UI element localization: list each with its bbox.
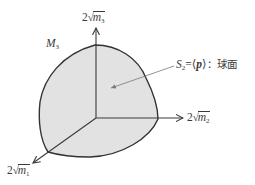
axis-label-m1: 2√m1 <box>7 164 30 178</box>
axis-m1-var: m <box>18 164 26 176</box>
spherical-surface-patch <box>39 45 158 157</box>
region-label-m3: M3 <box>46 38 59 51</box>
region-label-sub: 3 <box>56 43 60 51</box>
axis-m2-sub: 2 <box>206 117 210 125</box>
axis-m3-var: m <box>93 11 101 23</box>
axis-label-m3: 2√m3 <box>82 11 105 25</box>
diagram-canvas <box>0 0 255 185</box>
surface-annotation: S2=⟨p⟩：球面 <box>176 59 237 72</box>
axis-m1-sub: 1 <box>26 170 30 178</box>
axis-m2-var: m <box>198 111 206 123</box>
annotation-description: 球面 <box>217 58 237 70</box>
axis-m3-sub: 3 <box>101 17 105 25</box>
region-label-base: M <box>46 37 56 49</box>
annotation-colon: ： <box>207 58 217 70</box>
axis-label-m2: 2√m2 <box>187 111 210 125</box>
